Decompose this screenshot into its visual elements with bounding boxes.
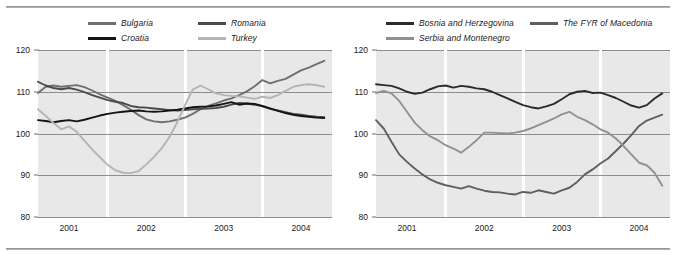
- chart-panel-right: Bosnia and Herzegovina The FYR of Macedo…: [338, 14, 676, 246]
- bottom-rule: [6, 248, 670, 250]
- legend-swatch-romania: [198, 22, 226, 25]
- y-tick-label-110: 110: [16, 88, 30, 97]
- legend-label-turkey: Turkey: [231, 34, 257, 43]
- chart-panel-left: Bulgaria Romania Croatia Turkey 80901001…: [0, 14, 340, 246]
- legend-swatch-croatia: [88, 37, 116, 40]
- x-tick-label-2002: 2002: [137, 224, 156, 233]
- y-tick-label-90: 90: [359, 171, 368, 180]
- series-line-turkey: [38, 84, 324, 173]
- y-tick-label-120: 120: [354, 46, 368, 55]
- x-axis-line-right: [376, 217, 670, 218]
- legend-swatch-bosnia-and-herzegovina: [386, 22, 414, 25]
- legend-label-bosnia-and-herzegovina: Bosnia and Herzegovina: [419, 19, 514, 28]
- legend-swatch-fyr-macedonia: [530, 22, 558, 25]
- x-tick-label-2001: 2001: [397, 224, 416, 233]
- x-tick-label-2003: 2003: [552, 224, 571, 233]
- legend-label-romania: Romania: [231, 19, 266, 28]
- legend-item-croatia[interactable]: Croatia: [88, 34, 149, 43]
- y-tick-label-90: 90: [21, 171, 30, 180]
- legend-swatch-bulgaria: [88, 22, 116, 25]
- series-group-left: [38, 50, 332, 217]
- x-tick-label-2001: 2001: [59, 224, 78, 233]
- legend-item-fyr-macedonia[interactable]: The FYR of Macedonia: [530, 19, 652, 28]
- series-line-bosnia-and-herzegovina: [376, 84, 662, 108]
- x-axis-line-left: [38, 217, 332, 218]
- legend-right: Bosnia and Herzegovina The FYR of Macedo…: [338, 18, 676, 48]
- x-tick-label-2004: 2004: [292, 224, 311, 233]
- legend-label-serbia-and-montenegro: Serbia and Montenegro: [419, 34, 510, 43]
- legend-label-croatia: Croatia: [121, 34, 149, 43]
- x-axis-right: 2001200220032004: [376, 221, 670, 237]
- y-axis-right: 8090100110120: [338, 50, 372, 217]
- legend-swatch-serbia-and-montenegro: [386, 37, 414, 40]
- plot-wrapper-left: 8090100110120 2001200220032004: [0, 50, 340, 246]
- y-tick-label-110: 110: [354, 88, 368, 97]
- x-tick-label-2004: 2004: [630, 224, 649, 233]
- legend-left: Bulgaria Romania Croatia Turkey: [0, 18, 340, 48]
- x-tick-label-2003: 2003: [214, 224, 233, 233]
- y-tick-label-100: 100: [354, 129, 368, 138]
- top-rule: [6, 6, 670, 8]
- y-tick-label-120: 120: [16, 46, 30, 55]
- x-axis-left: 2001200220032004: [38, 221, 332, 237]
- legend-item-serbia-and-montenegro[interactable]: Serbia and Montenegro: [386, 34, 510, 43]
- legend-item-bosnia-and-herzegovina[interactable]: Bosnia and Herzegovina: [386, 19, 514, 28]
- figure-container: Bulgaria Romania Croatia Turkey 80901001…: [0, 0, 676, 259]
- plot-wrapper-right: 8090100110120 2001200220032004: [338, 50, 676, 246]
- plot-area-left: [38, 50, 332, 217]
- legend-item-turkey[interactable]: Turkey: [198, 34, 257, 43]
- legend-item-romania[interactable]: Romania: [198, 19, 266, 28]
- y-tick-label-100: 100: [16, 129, 30, 138]
- x-tick-label-2002: 2002: [475, 224, 494, 233]
- plot-area-right: [376, 50, 670, 217]
- y-tick-label-80: 80: [359, 213, 368, 222]
- legend-label-bulgaria: Bulgaria: [121, 19, 153, 28]
- y-tick-label-80: 80: [21, 213, 30, 222]
- legend-item-bulgaria[interactable]: Bulgaria: [88, 19, 153, 28]
- y-axis-left: 8090100110120: [0, 50, 34, 217]
- series-group-right: [376, 50, 670, 217]
- legend-swatch-turkey: [198, 37, 226, 40]
- legend-label-fyr-macedonia: The FYR of Macedonia: [563, 19, 652, 28]
